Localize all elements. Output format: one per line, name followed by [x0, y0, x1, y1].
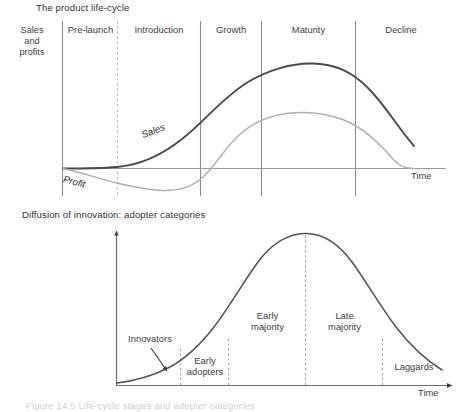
plc-sales-curve [63, 63, 414, 168]
plc-profit-curve [63, 112, 414, 190]
adopter-label-early-adopters: Early adopters [181, 355, 229, 378]
product-lifecycle-chart [63, 21, 447, 196]
figure-caption: Figure 14.5 Life-cycle stages and adopte… [26, 401, 255, 412]
stage-label-growth: Growth [201, 25, 261, 36]
innovators-leader-arrow [151, 348, 167, 371]
diffusion-title: Diffusion of innovation: adopter categor… [22, 210, 205, 221]
diffusion-x-axis-label: Time [418, 388, 438, 399]
sales-curve-label: Sales [140, 122, 166, 141]
product-lifecycle-x-axis-label: Time [411, 171, 431, 182]
profit-curve-label: Profit [62, 174, 86, 190]
stage-label-pre-launch: Pre-launch [64, 25, 117, 36]
adopter-label-laggards: Laggards [383, 361, 445, 372]
product-lifecycle-y-axis-caption: Sales and profits [10, 25, 54, 58]
adopter-label-innovators: Innovators [117, 333, 183, 344]
adopter-label-early-majority: Early majority [229, 310, 306, 333]
stage-label-introduction: Introduction [118, 25, 200, 36]
stage-label-decline: Decline [356, 25, 446, 36]
product-lifecycle-title: The product life-cycle [36, 3, 129, 14]
stage-label-maturity: Maturity [262, 25, 355, 36]
adopter-label-late-majority: Late majority [306, 310, 383, 333]
